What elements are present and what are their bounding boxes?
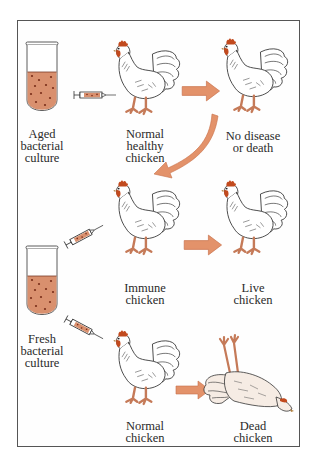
dead-chicken-icon	[200, 335, 300, 415]
aged-culture-label: Aged bacterial culture	[0, 128, 87, 164]
fresh-culture-test-tube-icon	[25, 246, 59, 318]
immune-chicken-icon	[110, 172, 184, 264]
normal-chicken-icon	[110, 322, 184, 414]
aged-culture-test-tube-icon	[25, 42, 59, 114]
no-disease-label: No disease or death	[208, 130, 298, 154]
syringe-icon	[66, 314, 110, 324]
no-disease-chicken-icon	[218, 30, 292, 122]
right-arrow-icon	[182, 80, 222, 102]
immune-chicken-label: Immune chicken	[100, 282, 190, 306]
normal-healthy-chicken-icon	[110, 32, 184, 124]
live-chicken-icon	[218, 172, 292, 264]
fresh-culture-label: Fresh bacterial culture	[0, 333, 87, 369]
live-chicken-label: Live chicken	[208, 282, 298, 306]
dead-chicken-label: Dead chicken	[208, 420, 298, 444]
normal-chicken-label: Normal chicken	[100, 420, 190, 444]
syringe-icon	[66, 240, 110, 250]
